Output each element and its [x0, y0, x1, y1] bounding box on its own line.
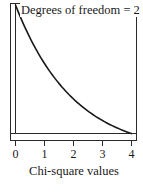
x-axis-title: Chi-square values	[29, 164, 119, 178]
chi-square-chart: Degrees of freedom = 2 0 1 2 3 4 Chi-squ…	[0, 0, 143, 196]
tick-label-0: 0	[13, 148, 19, 161]
degrees-of-freedom-annotation: Degrees of freedom = 2	[20, 3, 141, 17]
tick-label-2: 2	[71, 148, 77, 161]
outer-frame	[11, 4, 137, 141]
density-curve	[16, 5, 132, 134]
tick-label-4: 4	[129, 148, 135, 161]
tick-label-1: 1	[42, 148, 48, 161]
tick-label-3: 3	[100, 148, 106, 161]
